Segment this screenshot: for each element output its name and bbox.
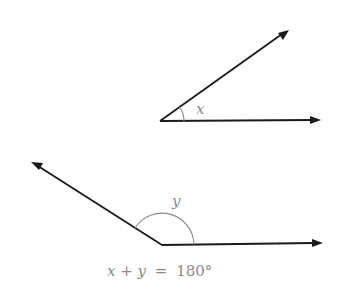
ray-upper-right	[160, 34, 282, 121]
supplementary-angles-diagram: x y x + y = 180°	[0, 0, 345, 291]
ray-right	[160, 120, 312, 121]
ray-right	[162, 243, 314, 245]
angle-y-label: y	[171, 192, 181, 210]
equation-text: x + y = 180°	[107, 262, 212, 280]
arrowhead-icon	[278, 30, 289, 40]
angle-x-arc	[180, 107, 184, 121]
angle-y-arc	[135, 213, 194, 244]
equation-equals: =	[155, 262, 168, 280]
equation-rhs: 180°	[176, 262, 212, 280]
ray-upper-left	[38, 166, 162, 245]
equation-lhs: x + y	[107, 262, 147, 280]
angle-x-group: x	[160, 30, 321, 124]
angle-x-label: x	[196, 100, 205, 118]
arrowhead-icon	[312, 239, 323, 247]
angle-y-group: y	[31, 162, 323, 247]
arrowhead-icon	[310, 116, 321, 124]
